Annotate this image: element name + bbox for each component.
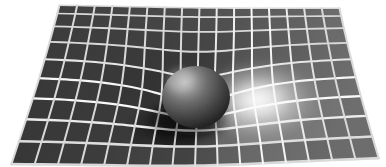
scene-canvas — [0, 0, 386, 167]
sphere-specular-highlight — [166, 68, 195, 91]
spacetime-curvature-figure: Spacetime Curvature by a Massive Body A … — [0, 0, 386, 167]
